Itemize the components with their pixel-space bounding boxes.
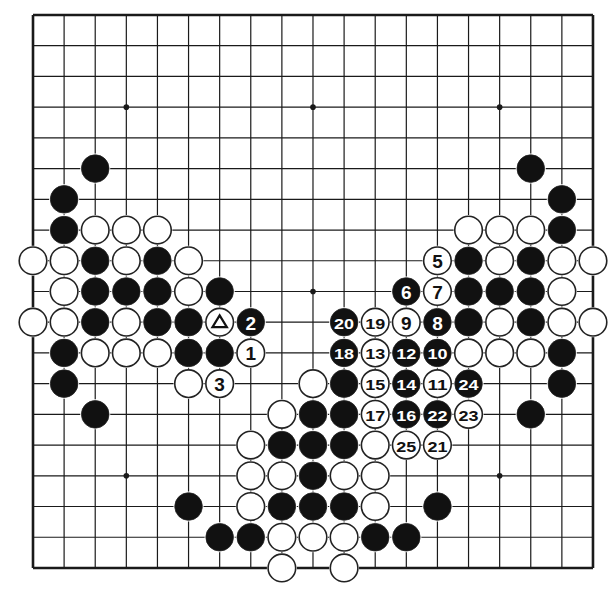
white-stone xyxy=(485,338,515,368)
black-stone-8: 8 xyxy=(422,307,452,337)
black-stone xyxy=(174,338,204,368)
white-stone xyxy=(111,215,141,245)
move-number: 17 xyxy=(365,407,385,424)
white-stone xyxy=(485,307,515,337)
move-number: 6 xyxy=(401,282,412,303)
black-stone xyxy=(547,184,577,214)
white-stone xyxy=(329,553,359,583)
white-stone-5: 5 xyxy=(422,246,452,276)
white-stone-9: 9 xyxy=(391,307,421,337)
black-stone xyxy=(236,522,266,552)
black-stone xyxy=(329,399,359,429)
black-stone xyxy=(142,276,172,306)
white-stone xyxy=(236,430,266,460)
white-stone xyxy=(49,246,79,276)
black-stone xyxy=(49,184,79,214)
white-stone xyxy=(454,338,484,368)
white-stone xyxy=(49,276,79,306)
black-stone xyxy=(516,307,546,337)
black-stone xyxy=(547,338,577,368)
black-stone-14: 14 xyxy=(391,369,421,399)
black-stone xyxy=(391,522,421,552)
white-stone xyxy=(111,246,141,276)
white-stone-3: 3 xyxy=(205,369,235,399)
black-stone-6: 6 xyxy=(391,276,421,306)
black-stone xyxy=(516,399,546,429)
white-stone xyxy=(267,522,297,552)
white-stone xyxy=(267,553,297,583)
white-stone xyxy=(329,522,359,552)
black-stone xyxy=(516,276,546,306)
go-board-diagram: 2135672019981813121015141124171622232521 xyxy=(0,0,614,603)
black-stone xyxy=(80,307,110,337)
star-point xyxy=(310,104,316,110)
move-number: 12 xyxy=(396,345,416,362)
move-number: 15 xyxy=(365,376,385,393)
white-stone xyxy=(578,307,608,337)
white-stone xyxy=(298,369,328,399)
white-stone-1: 1 xyxy=(236,338,266,368)
white-stone xyxy=(267,461,297,491)
black-stone xyxy=(267,492,297,522)
white-stone xyxy=(80,215,110,245)
white-stone xyxy=(578,246,608,276)
white-stone xyxy=(18,246,48,276)
black-stone xyxy=(174,307,204,337)
move-number: 8 xyxy=(432,313,443,334)
white-stone-23: 23 xyxy=(454,399,484,429)
star-point xyxy=(497,473,503,479)
white-stone xyxy=(454,215,484,245)
black-stone xyxy=(174,492,204,522)
black-stone xyxy=(329,492,359,522)
black-stone xyxy=(49,215,79,245)
move-number: 23 xyxy=(459,407,479,424)
move-number: 14 xyxy=(396,376,417,393)
black-stone xyxy=(454,307,484,337)
white-stone-15: 15 xyxy=(360,369,390,399)
move-number: 19 xyxy=(365,315,385,332)
black-stone-20: 20 xyxy=(329,307,359,337)
black-stone-18: 18 xyxy=(329,338,359,368)
star-point xyxy=(497,104,503,110)
move-number: 3 xyxy=(214,374,225,395)
white-stone xyxy=(174,369,204,399)
black-stone xyxy=(205,522,235,552)
black-stone xyxy=(111,276,141,306)
white-stone xyxy=(516,338,546,368)
black-stone xyxy=(49,338,79,368)
move-number: 1 xyxy=(245,343,256,364)
move-number: 9 xyxy=(401,313,412,334)
black-stone xyxy=(142,246,172,276)
move-number: 21 xyxy=(427,438,447,455)
black-stone xyxy=(329,369,359,399)
black-stone xyxy=(547,369,577,399)
black-stone-22: 22 xyxy=(422,399,452,429)
white-stone xyxy=(174,246,204,276)
black-stone xyxy=(516,154,546,184)
white-stone xyxy=(142,338,172,368)
move-number: 13 xyxy=(365,345,385,362)
move-number: 16 xyxy=(396,407,416,424)
black-stone xyxy=(516,246,546,276)
black-stone xyxy=(298,430,328,460)
white-stone xyxy=(547,276,577,306)
white-stone xyxy=(547,307,577,337)
white-stone xyxy=(80,338,110,368)
white-stone xyxy=(329,461,359,491)
white-stone xyxy=(111,307,141,337)
white-stone xyxy=(236,461,266,491)
move-number: 7 xyxy=(432,282,443,303)
black-stone xyxy=(485,276,515,306)
white-stone-13: 13 xyxy=(360,338,390,368)
white-stone xyxy=(236,492,266,522)
move-number: 10 xyxy=(427,345,447,362)
black-stone-2: 2 xyxy=(236,307,266,337)
black-stone-10: 10 xyxy=(422,338,452,368)
white-stone xyxy=(516,215,546,245)
white-stone-25: 25 xyxy=(391,430,421,460)
black-stone xyxy=(80,399,110,429)
move-number: 24 xyxy=(459,376,480,393)
black-stone xyxy=(80,276,110,306)
white-stone xyxy=(360,492,390,522)
black-stone xyxy=(454,276,484,306)
